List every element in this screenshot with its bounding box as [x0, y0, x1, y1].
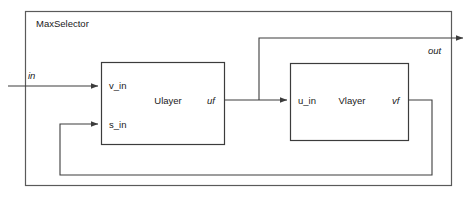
port-label-s-in: s_in — [109, 119, 126, 130]
block-diagram-canvas: MaxSelector Ulayer v_in s_in uf Vlayer u… — [0, 0, 472, 197]
port-label-uf: uf — [207, 95, 216, 106]
signal-label-out: out — [428, 45, 442, 56]
outer-block-label: MaxSelector — [36, 18, 89, 29]
block-ulayer-label: Ulayer — [154, 95, 181, 106]
block-vlayer-label: Vlayer — [339, 95, 366, 106]
max-selector-diagram: MaxSelector Ulayer v_in s_in uf Vlayer u… — [0, 0, 472, 197]
signal-label-in: in — [28, 70, 35, 81]
port-label-v-in: v_in — [109, 80, 126, 91]
port-label-u-in: u_in — [298, 95, 316, 106]
